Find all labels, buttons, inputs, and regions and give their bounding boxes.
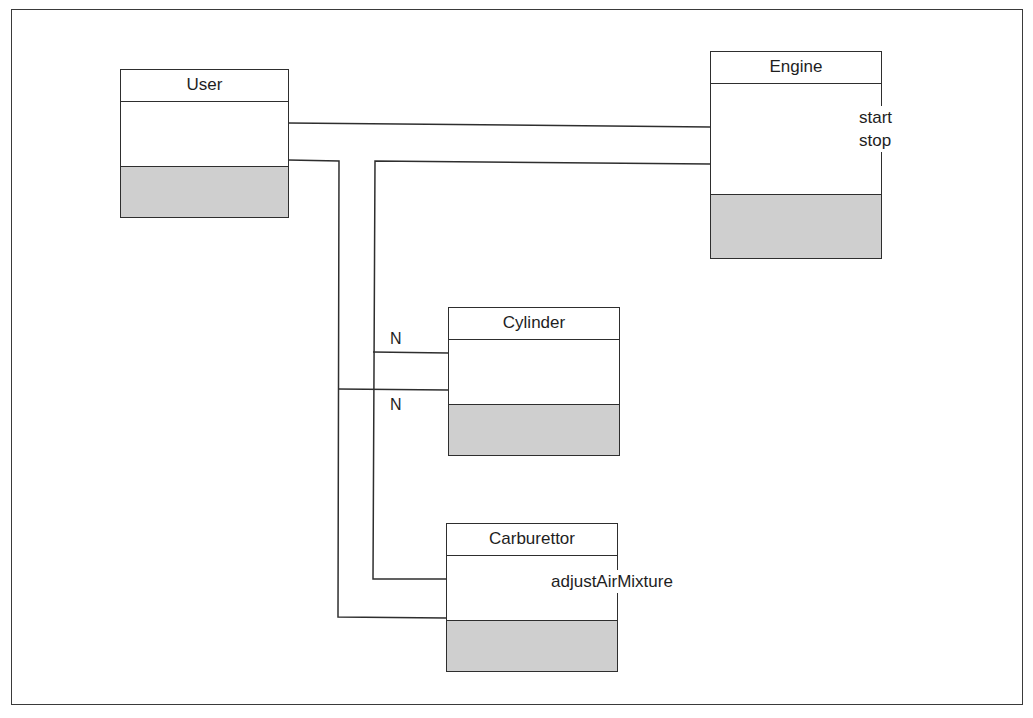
engine-operations: start stop (858, 106, 893, 152)
association-user-cylinder (338, 389, 448, 390)
class-engine[interactable]: Engine (710, 51, 882, 259)
class-cylinder[interactable]: Cylinder (448, 307, 620, 456)
operations-compartment (121, 166, 288, 217)
operation-stop: stop (859, 129, 892, 152)
class-name: Engine (711, 52, 881, 84)
association-user-engine (288, 123, 710, 127)
operation-start: start (859, 106, 892, 129)
operations-compartment (711, 194, 881, 258)
class-name: User (121, 70, 288, 102)
multiplicity-user-cylinder: N (390, 396, 402, 414)
association-engine-cylinder (373, 352, 448, 353)
class-name: Cylinder (449, 308, 619, 340)
operation-adjust-air-mixture: adjustAirMixture (551, 570, 673, 593)
carburettor-operations: adjustAirMixture (550, 570, 674, 593)
operations-compartment (447, 620, 617, 671)
operations-compartment (449, 404, 619, 455)
multiplicity-engine-cylinder: N (390, 330, 402, 348)
class-user[interactable]: User (120, 69, 289, 218)
class-carburettor[interactable]: Carburettor (446, 523, 618, 672)
class-name: Carburettor (447, 524, 617, 556)
